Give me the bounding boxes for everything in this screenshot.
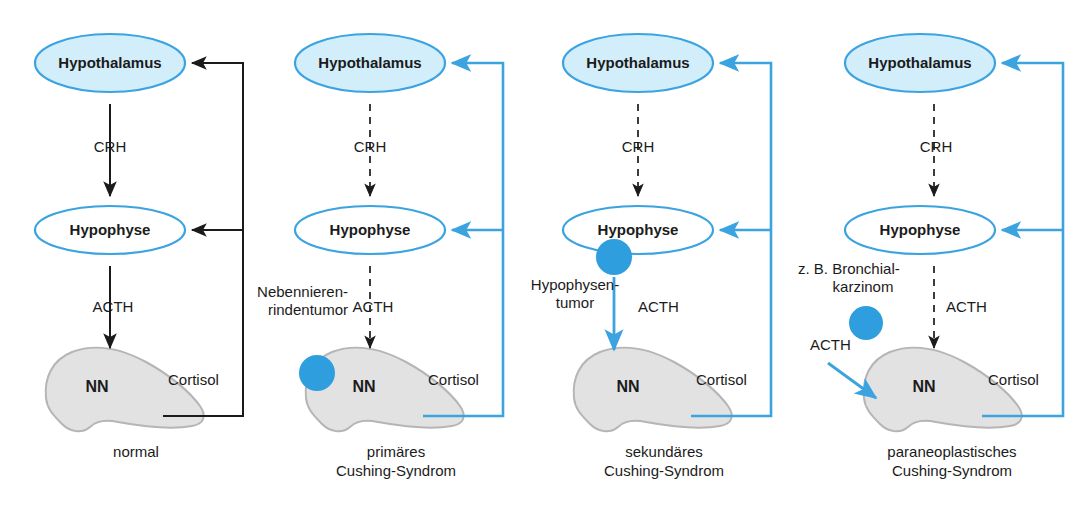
hypothalamus-label: Hypothalamus <box>868 54 971 71</box>
panel-caption: paraneoplastisches Cushing-Syndrom <box>816 443 1088 481</box>
crh-label: CRH <box>0 138 220 155</box>
adrenal-tumor-dot <box>299 355 335 391</box>
figure-canvas: NN HypothalamusHypophyse Hypothalamus CR… <box>0 0 1088 516</box>
panel-primaeres-cushing-syndrom: NN HypothalamusHypophyse CRH ACTH Nebenn… <box>260 0 532 516</box>
cortisol-label: Cortisol <box>696 371 747 388</box>
nn-label: NN <box>616 378 639 395</box>
panel-normal: NN HypothalamusHypophyse Hypothalamus CR… <box>0 0 272 516</box>
ectopic-tumor-dot <box>849 306 883 340</box>
tumor-label-line1: Nebennieren- <box>218 283 348 300</box>
panel-normal-graphics: NN HypothalamusHypophyse <box>0 0 272 516</box>
hypothalamus-label: Hypothalamus <box>318 54 421 71</box>
panel-caption: normal <box>0 443 272 462</box>
hypophyse-label: Hypophyse <box>330 221 411 238</box>
panel-caption: sekundäres Cushing-Syndrom <box>528 443 800 481</box>
cortisol-feedback-line <box>982 63 1063 416</box>
acth-label: ACTH <box>0 298 226 315</box>
panel-caption: primäres Cushing-Syndrom <box>260 443 532 481</box>
nn-label: NN <box>85 378 108 395</box>
adrenal-gland-shape <box>46 348 204 432</box>
crh-label: CRH <box>826 138 1046 155</box>
cortisol-label: Cortisol <box>428 371 479 388</box>
panel-sekundaeres-graphics: NN HypothalamusHypophyse <box>528 0 800 516</box>
crh-label: CRH <box>260 138 480 155</box>
crh-label: CRH <box>528 138 748 155</box>
acth-label: ACTH <box>638 298 679 315</box>
cortisol-label: Cortisol <box>168 371 219 388</box>
tumor-label-line2: rindentumor <box>218 301 348 318</box>
panel-paraneoplastisches-graphics: NN HypothalamusHypophyse <box>816 0 1088 516</box>
panel-sekundaeres-cushing-syndrom: NN HypothalamusHypophyse CRH ACTH Hypoph… <box>528 0 800 516</box>
tumor-label-line2: karzinom <box>798 278 928 295</box>
hypothalamus-label: Hypothalamus <box>58 54 161 71</box>
cortisol-label: Cortisol <box>988 371 1039 388</box>
hypophyse-label: Hypophyse <box>598 221 679 238</box>
tumor-label-line1: z. B. Bronchial- <box>798 260 900 277</box>
adrenal-gland-shape <box>574 348 732 432</box>
hypophyse-label: Hypophyse <box>70 221 151 238</box>
panel-paraneoplastisches-cushing-syndrom: NN HypothalamusHypophyse CRH ACTH z. B. … <box>816 0 1088 516</box>
acth-label: ACTH <box>946 298 987 315</box>
nn-label: NN <box>352 378 375 395</box>
hypothalamus-label: Hypothalamus <box>586 54 689 71</box>
pituitary-tumor-dot <box>596 239 632 275</box>
nn-label: NN <box>912 378 935 395</box>
ectopic-acth-label: ACTH <box>810 336 851 353</box>
tumor-label-line1: Hypophysen- <box>520 276 630 293</box>
tumor-label-line2: tumor <box>520 294 630 311</box>
panel-primaeres-graphics: NN HypothalamusHypophyse <box>260 0 532 516</box>
adrenal-gland-shape <box>864 348 1022 432</box>
hypophyse-label: Hypophyse <box>880 221 961 238</box>
